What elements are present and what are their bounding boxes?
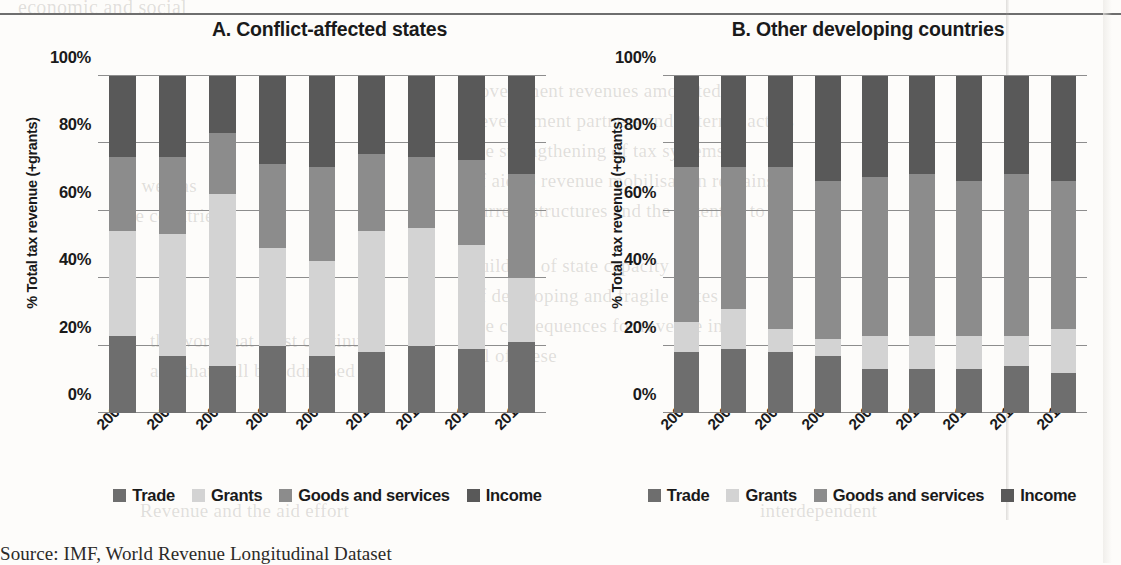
bar-segment[interactable] — [815, 181, 840, 339]
bar-segment[interactable] — [862, 369, 887, 413]
bar-column[interactable] — [347, 76, 397, 413]
bar-segment[interactable] — [1051, 76, 1076, 180]
bar-segment[interactable] — [721, 309, 746, 349]
bar-segment[interactable] — [909, 174, 934, 336]
bar-segment[interactable] — [768, 76, 793, 167]
bar-segment[interactable] — [408, 157, 435, 228]
bar-segment[interactable] — [408, 346, 435, 413]
stacked-bar[interactable] — [358, 76, 385, 413]
bar-column[interactable] — [397, 76, 447, 413]
bar-segment[interactable] — [309, 167, 336, 261]
bar-segment[interactable] — [815, 76, 840, 180]
bar-segment[interactable] — [159, 356, 186, 413]
stacked-bar[interactable] — [956, 76, 981, 413]
bar-segment[interactable] — [909, 369, 934, 413]
bar-segment[interactable] — [259, 248, 286, 346]
bar-segment[interactable] — [909, 76, 934, 174]
bar-segment[interactable] — [721, 76, 746, 167]
legend-item[interactable]: Grants — [726, 486, 796, 505]
bar-segment[interactable] — [508, 278, 535, 342]
legend-item[interactable]: Grants — [192, 486, 262, 505]
bar-segment[interactable] — [1004, 336, 1029, 366]
stacked-bar[interactable] — [309, 76, 336, 413]
bar-column[interactable] — [297, 76, 347, 413]
bar-column[interactable] — [446, 76, 496, 413]
legend-item[interactable]: Trade — [113, 486, 175, 505]
bar-segment[interactable] — [109, 336, 136, 414]
bar-column[interactable] — [757, 76, 804, 413]
bar-segment[interactable] — [358, 154, 385, 232]
stacked-bar[interactable] — [159, 76, 186, 413]
bar-segment[interactable] — [259, 76, 286, 164]
bar-segment[interactable] — [508, 174, 535, 278]
bar-segment[interactable] — [815, 339, 840, 356]
bar-column[interactable] — [710, 76, 757, 413]
bar-segment[interactable] — [1051, 373, 1076, 413]
bar-segment[interactable] — [909, 336, 934, 370]
legend-item[interactable]: Goods and services — [814, 486, 984, 505]
bar-segment[interactable] — [956, 181, 981, 336]
bar-segment[interactable] — [309, 261, 336, 355]
bar-segment[interactable] — [209, 366, 236, 413]
bar-segment[interactable] — [674, 322, 699, 352]
bar-segment[interactable] — [815, 356, 840, 413]
bar-segment[interactable] — [109, 157, 136, 231]
stacked-bar[interactable] — [408, 76, 435, 413]
stacked-bar[interactable] — [458, 76, 485, 413]
bar-segment[interactable] — [862, 177, 887, 335]
stacked-bar[interactable] — [508, 76, 535, 413]
stacked-bar[interactable] — [259, 76, 286, 413]
bar-segment[interactable] — [358, 76, 385, 154]
bar-segment[interactable] — [721, 167, 746, 309]
bar-segment[interactable] — [358, 231, 385, 352]
bar-segment[interactable] — [109, 231, 136, 335]
bar-segment[interactable] — [259, 164, 286, 248]
bar-segment[interactable] — [458, 76, 485, 160]
bar-column[interactable] — [98, 76, 148, 413]
stacked-bar[interactable] — [109, 76, 136, 413]
bar-segment[interactable] — [309, 76, 336, 167]
bar-column[interactable] — [993, 76, 1040, 413]
bar-segment[interactable] — [508, 342, 535, 413]
stacked-bar[interactable] — [768, 76, 793, 413]
bar-segment[interactable] — [1004, 366, 1029, 413]
bar-segment[interactable] — [1051, 329, 1076, 373]
bar-segment[interactable] — [1051, 181, 1076, 329]
stacked-bar[interactable] — [674, 76, 699, 413]
bar-segment[interactable] — [956, 336, 981, 370]
stacked-bar[interactable] — [1004, 76, 1029, 413]
bar-segment[interactable] — [159, 234, 186, 355]
bar-column[interactable] — [804, 76, 851, 413]
bar-segment[interactable] — [159, 157, 186, 235]
bar-segment[interactable] — [209, 133, 236, 194]
bar-column[interactable] — [247, 76, 297, 413]
bar-segment[interactable] — [674, 167, 699, 322]
bar-segment[interactable] — [862, 336, 887, 370]
legend-item[interactable]: Trade — [648, 486, 710, 505]
stacked-bar[interactable] — [862, 76, 887, 413]
bar-segment[interactable] — [259, 346, 286, 413]
bar-segment[interactable] — [309, 356, 336, 413]
bar-segment[interactable] — [209, 76, 236, 133]
bar-segment[interactable] — [458, 160, 485, 244]
bar-segment[interactable] — [408, 76, 435, 157]
bar-segment[interactable] — [408, 228, 435, 346]
bar-column[interactable] — [851, 76, 898, 413]
bar-segment[interactable] — [674, 352, 699, 413]
bar-segment[interactable] — [458, 349, 485, 413]
bar-column[interactable] — [1040, 76, 1087, 413]
bar-column[interactable] — [496, 76, 546, 413]
bar-segment[interactable] — [159, 76, 186, 157]
stacked-bar[interactable] — [209, 76, 236, 413]
stacked-bar[interactable] — [721, 76, 746, 413]
stacked-bar[interactable] — [909, 76, 934, 413]
stacked-bar[interactable] — [1051, 76, 1076, 413]
bar-segment[interactable] — [1004, 174, 1029, 336]
bar-segment[interactable] — [956, 369, 981, 413]
bar-segment[interactable] — [508, 76, 535, 174]
legend-item[interactable]: Goods and services — [279, 486, 449, 505]
bar-segment[interactable] — [862, 76, 887, 177]
bar-column[interactable] — [899, 76, 946, 413]
bar-segment[interactable] — [721, 349, 746, 413]
bar-segment[interactable] — [768, 352, 793, 413]
